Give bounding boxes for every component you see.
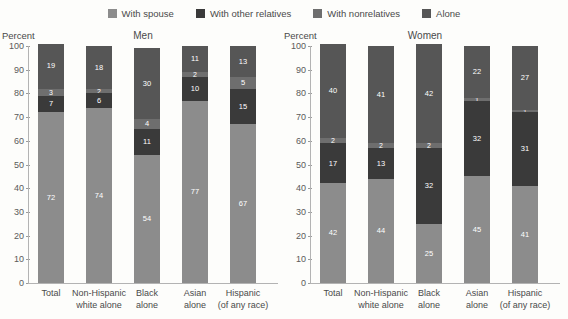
- legend-item-label: With nonrelatives: [327, 8, 400, 19]
- bar-value-label: 17: [329, 160, 337, 168]
- bar-value-label: 27: [521, 74, 529, 82]
- bar-segment: 54: [134, 155, 160, 283]
- bar-value-label: 1: [523, 110, 527, 112]
- bar-segment: 74: [86, 108, 112, 283]
- bar-value-label: 19: [47, 62, 55, 70]
- bar-segment: 15: [230, 89, 256, 125]
- bar-value-label: 54: [143, 215, 151, 223]
- bar-segment: 2: [320, 138, 346, 143]
- x-axis-label-line: (of any race): [211, 300, 275, 312]
- square-swatch-icon: [108, 9, 117, 18]
- bar-value-label: 11: [143, 138, 151, 146]
- bar-segment: 22: [464, 46, 490, 98]
- bar-value-label: 7: [49, 100, 53, 108]
- bar-value-label: 15: [239, 103, 247, 111]
- bar-segment: 30: [134, 48, 160, 119]
- x-axis-label: Hispanic(of any race): [211, 288, 275, 311]
- y-axis-tick-label: 30: [284, 207, 306, 216]
- bar-segment: 77: [182, 101, 208, 283]
- bar-group-men: 727319746218541143077102116715513: [28, 46, 278, 283]
- bar-value-label: 11: [191, 55, 199, 63]
- legend-item: Alone: [422, 8, 460, 19]
- square-swatch-icon: [196, 9, 205, 18]
- bar-segment: 44: [368, 179, 394, 283]
- bar-value-label: 2: [331, 138, 335, 143]
- bar-column: 4413241: [368, 46, 394, 283]
- bar-segment: 2: [182, 72, 208, 77]
- bar-value-label: 6: [97, 97, 101, 105]
- y-axis-tick-label: 20: [2, 231, 24, 240]
- y-axis-tick-label: 90: [284, 65, 306, 74]
- legend-item: With spouse: [108, 8, 174, 19]
- bar-column: 5411430: [134, 46, 160, 283]
- y-axis-tick-label: 0: [2, 279, 24, 288]
- y-axis-tick-label: 90: [2, 65, 24, 74]
- bar-segment: 32: [416, 148, 442, 224]
- y-axis-tick-label: 50: [284, 160, 306, 169]
- y-axis-tick-label: 60: [284, 136, 306, 145]
- x-axis-line: [28, 283, 278, 284]
- bar-value-label: 67: [239, 200, 247, 208]
- bar-group-women: 42172404413241253224245321224131127: [310, 46, 560, 283]
- x-axis-labels-women: TotalNon-Hispanicwhite aloneBlackaloneAs…: [310, 288, 560, 319]
- bar-value-label: 25: [425, 250, 433, 258]
- bar-value-label: 4: [145, 120, 149, 128]
- y-axis-tick-label: 20: [284, 231, 306, 240]
- bar-segment: 45: [464, 176, 490, 283]
- legend-item-label: With other relatives: [210, 8, 291, 19]
- bar-value-label: 40: [329, 87, 337, 95]
- chart-panel-men: Percent Men 0102030405060708090100 72731…: [0, 30, 286, 319]
- bar-value-label: 45: [473, 226, 481, 234]
- x-axis-line: [310, 283, 560, 284]
- y-axis-tick-label: 30: [2, 207, 24, 216]
- bar-segment: 27: [512, 46, 538, 110]
- bar-value-label: 3: [49, 89, 53, 96]
- bar-value-label: 32: [473, 135, 481, 143]
- y-axis-tick-label: 70: [284, 113, 306, 122]
- x-axis-labels-men: TotalNon-Hispanicwhite aloneBlackaloneAs…: [28, 288, 278, 319]
- bar-value-label: 74: [95, 192, 103, 200]
- bar-column: 746218: [86, 46, 112, 283]
- panel-title-men: Men: [0, 30, 286, 41]
- bar-segment: 17: [320, 143, 346, 183]
- bar-value-label: 5: [241, 79, 245, 87]
- square-swatch-icon: [422, 9, 431, 18]
- y-axis-tick-label: 10: [2, 255, 24, 264]
- y-axis-tick-label: 100: [2, 42, 24, 51]
- bar-column: 4131127: [512, 46, 538, 283]
- bar-segment: 10: [182, 77, 208, 101]
- plot-area-men: 0102030405060708090100 72731974621854114…: [28, 46, 278, 283]
- bar-column: 4217240: [320, 46, 346, 283]
- bar-segment: 1: [512, 110, 538, 112]
- bar-column: 7710211: [182, 46, 208, 283]
- bar-value-label: 13: [239, 58, 247, 66]
- bar-segment: 13: [368, 148, 394, 179]
- bar-value-label: 18: [95, 64, 103, 72]
- bar-value-label: 42: [425, 90, 433, 98]
- bar-segment: 67: [230, 124, 256, 283]
- bar-segment: 42: [320, 183, 346, 283]
- bar-segment: 3: [38, 89, 64, 96]
- bar-value-label: 32: [425, 182, 433, 190]
- bar-segment: 25: [416, 224, 442, 283]
- bar-value-label: 10: [191, 85, 199, 93]
- x-axis-label: Hispanic(of any race): [493, 288, 557, 311]
- y-axis-tick-label: 70: [2, 113, 24, 122]
- bar-segment: 19: [38, 44, 64, 89]
- bar-segment: 2: [368, 143, 394, 148]
- bar-segment: 6: [86, 93, 112, 107]
- bar-segment: 41: [512, 186, 538, 283]
- bar-column: 4532122: [464, 46, 490, 283]
- bar-value-label: 41: [377, 91, 385, 99]
- square-swatch-icon: [313, 9, 322, 18]
- plot-area-women: 0102030405060708090100 42172404413241253…: [310, 46, 560, 283]
- bar-value-label: 77: [191, 188, 199, 196]
- bar-value-label: 22: [473, 68, 481, 76]
- bar-value-label: 2: [427, 143, 431, 148]
- bar-segment: 7: [38, 96, 64, 113]
- y-axis-tick-label: 0: [284, 279, 306, 288]
- bar-value-label: 44: [377, 227, 385, 235]
- bar-segment: 41: [368, 46, 394, 143]
- bar-value-label: 42: [329, 229, 337, 237]
- bar-segment: 1: [464, 98, 490, 100]
